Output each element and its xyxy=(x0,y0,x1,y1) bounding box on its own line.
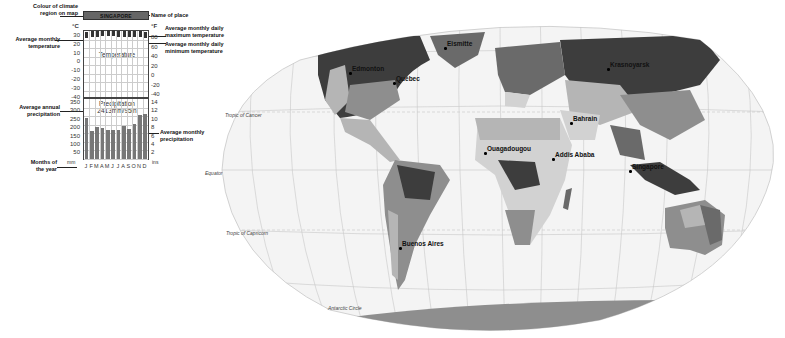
temperature-marker xyxy=(91,31,94,37)
legend-months-pointer xyxy=(57,167,77,168)
legend-avg-temp-label: Average monthly temperature xyxy=(2,36,60,49)
grid-line xyxy=(89,31,90,97)
grid-line xyxy=(84,91,148,92)
fahrenheit-tick: 80 xyxy=(151,34,165,40)
ins-tick: 2 xyxy=(151,149,165,155)
temperature-marker xyxy=(112,30,115,36)
mm-tick: 100 xyxy=(62,141,80,147)
celsius-tick: -10 xyxy=(62,67,80,73)
celsius-tick: 20 xyxy=(62,41,80,47)
legend-monthly-precip-label: Average monthly precipitation xyxy=(160,129,210,142)
legend-colour-label: Colour of climate region on map xyxy=(20,3,78,16)
month-label: D xyxy=(142,163,148,169)
latitude-label: Antarctic Circle xyxy=(328,305,362,311)
temperature-marker xyxy=(107,30,110,36)
ins-tick: 6 xyxy=(151,133,165,139)
latitude-label: Tropic of Cancer xyxy=(225,112,262,118)
celsius-tick: -20 xyxy=(62,76,80,82)
temperature-plot: Temperature xyxy=(83,30,149,98)
temperature-marker xyxy=(117,31,120,37)
grid-line xyxy=(137,31,138,97)
temperature-marker xyxy=(101,30,104,36)
grid-line xyxy=(100,31,101,97)
unit-ins: ins xyxy=(152,159,158,165)
world-climate-map xyxy=(215,0,785,338)
fahrenheit-tick: 0 xyxy=(151,72,165,78)
grid-line xyxy=(84,40,148,41)
grid-line xyxy=(84,65,148,66)
grid-line xyxy=(105,31,106,97)
temperature-marker xyxy=(123,31,126,37)
place-marker-icon[interactable] xyxy=(552,158,555,161)
place-label[interactable]: Ouagadougou xyxy=(487,145,531,152)
fahrenheit-tick: -40 xyxy=(151,91,165,97)
latitude-label: Tropic of Capricorn xyxy=(226,230,268,236)
place-label[interactable]: Edmonton xyxy=(352,65,384,72)
grid-line xyxy=(127,31,128,97)
place-marker-icon[interactable] xyxy=(570,122,573,125)
place-marker-icon[interactable] xyxy=(444,47,447,50)
place-label[interactable]: Singapore xyxy=(632,163,664,170)
fahrenheit-tick: 60 xyxy=(151,44,165,50)
ins-tick: 12 xyxy=(151,107,165,113)
fahrenheit-tick: 40 xyxy=(151,53,165,59)
ins-tick: 8 xyxy=(151,124,165,130)
place-label[interactable]: Québec xyxy=(396,75,420,82)
celsius-tick: -30 xyxy=(62,85,80,91)
grid-line xyxy=(121,31,122,97)
precipitation-bar xyxy=(122,126,126,159)
grid-line xyxy=(116,31,117,97)
fahrenheit-tick: 20 xyxy=(151,63,165,69)
place-marker-icon[interactable] xyxy=(399,247,402,250)
precipitation-bar xyxy=(90,131,94,159)
ins-tick: 14 xyxy=(151,99,165,105)
precipitation-plot: Precipitation 2413mm/95in xyxy=(83,98,149,160)
place-label[interactable]: Eismitte xyxy=(447,40,472,47)
grid-line xyxy=(84,74,148,75)
place-label[interactable]: Krasnoyarsk xyxy=(610,61,649,68)
ins-tick: 10 xyxy=(151,116,165,122)
grid-line xyxy=(84,48,148,49)
temperature-marker xyxy=(144,32,147,38)
unit-celsius: °C xyxy=(72,23,79,29)
place-label[interactable]: Addis Ababa xyxy=(555,151,595,158)
precipitation-bar xyxy=(138,115,142,159)
place-marker-icon[interactable] xyxy=(349,72,352,75)
place-name: SINGAPORE xyxy=(100,13,132,19)
celsius-tick: 10 xyxy=(62,50,80,56)
unit-fahrenheit: °F xyxy=(151,23,157,29)
place-label[interactable]: Bahrain xyxy=(573,115,597,122)
unit-mm: mm xyxy=(67,159,75,165)
celsius-tick: 30 xyxy=(62,32,80,38)
fahrenheit-tick: -20 xyxy=(151,82,165,88)
mm-tick: 250 xyxy=(62,116,80,122)
grid-line xyxy=(111,31,112,97)
place-name-bar: SINGAPORE xyxy=(83,11,149,20)
mm-tick: 50 xyxy=(62,149,80,155)
grid-line xyxy=(84,82,148,83)
temperature-marker xyxy=(85,32,88,38)
precipitation-bar xyxy=(117,130,121,159)
temperature-marker xyxy=(133,31,136,37)
grid-line xyxy=(95,31,96,97)
temperature-marker xyxy=(96,31,99,37)
mm-tick: 300 xyxy=(62,107,80,113)
precipitation-bar xyxy=(127,129,131,159)
latitude-label: Equator xyxy=(205,170,223,176)
celsius-tick: 0 xyxy=(62,58,80,64)
precipitation-bar xyxy=(106,130,110,159)
precipitation-bar xyxy=(95,127,99,159)
place-label[interactable]: Buenos Aires xyxy=(402,240,444,247)
place-marker-icon[interactable] xyxy=(393,82,396,85)
place-marker-icon[interactable] xyxy=(629,170,632,173)
place-marker-icon[interactable] xyxy=(607,68,610,71)
grid-line xyxy=(84,108,148,109)
place-marker-icon[interactable] xyxy=(484,152,487,155)
legend-name-label: Name of place xyxy=(151,12,201,19)
legend-months-label: Months of the year xyxy=(22,159,57,172)
precipitation-bar xyxy=(143,114,147,159)
grid-line xyxy=(84,57,148,58)
mm-tick: 150 xyxy=(62,133,80,139)
precipitation-bar xyxy=(85,118,89,159)
grid-line xyxy=(132,31,133,97)
